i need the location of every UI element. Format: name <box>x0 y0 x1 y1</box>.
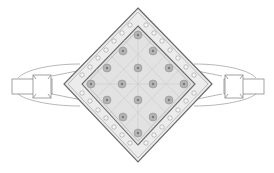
right-shank <box>224 75 264 98</box>
ring-svg <box>0 0 274 173</box>
inner-diamond <box>82 26 195 145</box>
left-shank <box>12 75 52 98</box>
ring-drawing <box>0 0 274 173</box>
head <box>64 8 212 162</box>
